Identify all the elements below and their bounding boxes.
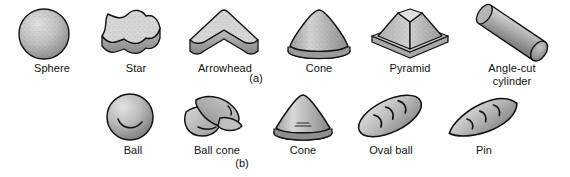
shape-cone-b: Cone bbox=[262, 92, 344, 158]
panel-label-b: (b) bbox=[222, 157, 262, 169]
angle-cut-cylinder-icon bbox=[464, 6, 560, 62]
shape-label-cone-a: Cone bbox=[276, 62, 362, 75]
ball-cone-icon bbox=[176, 92, 258, 144]
shape-label-ball: Ball bbox=[98, 144, 168, 157]
shape-label-pyramid: Pyramid bbox=[364, 62, 456, 75]
arrowhead-icon bbox=[180, 6, 270, 62]
figure-media-shapes: Sphere Star bbox=[0, 0, 570, 177]
sphere-icon bbox=[14, 6, 90, 62]
shape-oval-ball: Oval ball bbox=[348, 92, 434, 158]
shape-ball: Ball bbox=[98, 92, 168, 158]
shape-pyramid: Pyramid bbox=[364, 6, 456, 76]
shape-label-star: Star bbox=[94, 62, 178, 75]
shape-arrowhead: Arrowhead bbox=[180, 6, 270, 76]
shape-sphere: Sphere bbox=[14, 6, 90, 76]
pyramid-icon bbox=[364, 6, 456, 62]
shape-label-ball-cone: Ball cone bbox=[176, 144, 258, 157]
ball-icon bbox=[98, 92, 168, 144]
cone-round-icon bbox=[262, 92, 344, 144]
shape-label-angle-cut-cylinder: Angle-cut cylinder bbox=[464, 62, 560, 87]
panel-label-a: (a) bbox=[236, 72, 276, 84]
oval-ball-icon bbox=[348, 92, 434, 144]
star-icon bbox=[94, 6, 178, 62]
shape-pin: Pin bbox=[438, 92, 530, 158]
shape-star: Star bbox=[94, 6, 178, 76]
shape-cone-a: Cone bbox=[276, 6, 362, 76]
shape-label-oval-ball: Oval ball bbox=[348, 144, 434, 157]
shape-ball-cone: Ball cone bbox=[176, 92, 258, 158]
shape-label-pin: Pin bbox=[438, 144, 530, 157]
shape-label-sphere: Sphere bbox=[14, 62, 90, 75]
shape-angle-cut-cylinder: Angle-cut cylinder bbox=[464, 6, 560, 80]
shape-label-cone-b: Cone bbox=[262, 144, 344, 157]
cone-icon bbox=[276, 6, 362, 62]
pin-icon bbox=[438, 92, 530, 144]
